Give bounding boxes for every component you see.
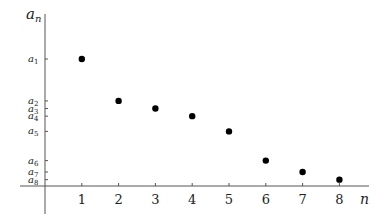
data-points — [79, 56, 343, 183]
x-axis-label: n — [360, 191, 369, 207]
sequence-scatter-chart: an n 12345678 a1a2a3a4a5a6a7a8 — [0, 0, 386, 221]
y-axis-label: an — [26, 5, 41, 24]
x-tick-label: 8 — [335, 192, 343, 207]
x-tick-label: 1 — [78, 192, 86, 207]
data-point — [152, 105, 158, 111]
data-point — [189, 113, 195, 119]
x-tick-label: 2 — [114, 192, 122, 207]
data-point — [336, 176, 342, 182]
x-tick-label: 4 — [188, 192, 196, 207]
data-point — [226, 128, 232, 134]
data-point — [79, 56, 85, 62]
x-tick-label: 6 — [262, 192, 270, 207]
data-point — [263, 157, 269, 163]
x-tick-label: 7 — [298, 192, 306, 207]
y-tick-label: a5 — [28, 125, 38, 138]
data-point — [299, 169, 305, 175]
x-ticks: 12345678 — [78, 183, 344, 207]
data-point — [115, 98, 121, 104]
x-tick-label: 3 — [151, 192, 159, 207]
y-tick-label: a1 — [28, 53, 38, 66]
x-tick-label: 5 — [225, 192, 233, 207]
